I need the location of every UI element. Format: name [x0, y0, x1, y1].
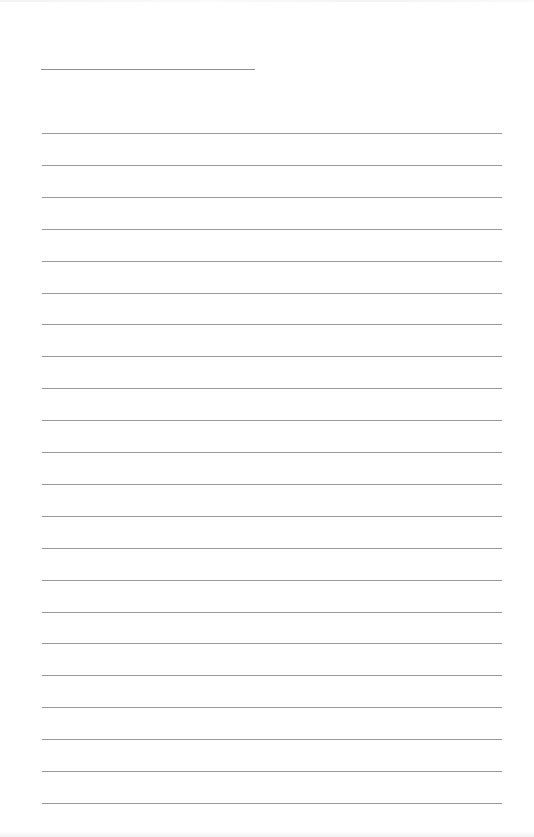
ruled-line — [42, 420, 502, 421]
ruled-line — [42, 324, 502, 325]
ruled-line — [42, 803, 502, 804]
title-write-line — [41, 69, 255, 70]
ruled-line — [42, 452, 502, 453]
ruled-line — [42, 484, 502, 485]
ruled-line — [42, 133, 502, 134]
ruled-line — [42, 197, 502, 198]
ruled-line — [42, 516, 502, 517]
ruled-line — [42, 612, 502, 613]
ruled-line — [42, 293, 502, 294]
ruled-line — [42, 675, 502, 676]
ruled-line — [42, 356, 502, 357]
bottom-edge — [0, 831, 534, 837]
ruled-line — [42, 261, 502, 262]
ruled-line — [42, 548, 502, 549]
ruled-line — [42, 771, 502, 772]
ruled-line — [42, 707, 502, 708]
ruled-line — [42, 165, 502, 166]
ruled-line — [42, 388, 502, 389]
ruled-line — [42, 580, 502, 581]
ruled-line — [42, 739, 502, 740]
ruled-line — [42, 229, 502, 230]
ruled-line — [42, 643, 502, 644]
top-edge — [0, 0, 534, 2]
